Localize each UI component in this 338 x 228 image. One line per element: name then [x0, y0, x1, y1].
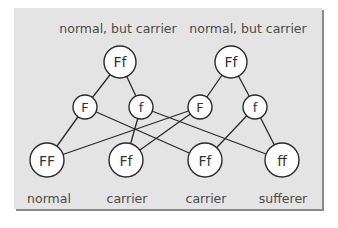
parent-label-2: normal, but carrier [189, 21, 307, 36]
gamete-allele-1: F [81, 100, 88, 115]
offspring-label-2: carrier [107, 191, 149, 206]
offspring-node-3: Ff [188, 143, 222, 177]
offspring-genotype-1: FF [39, 153, 55, 169]
gamete-node-1: F [73, 95, 97, 119]
gamete-allele-4: f [253, 100, 258, 115]
gamete-node-2: f [129, 95, 153, 119]
gamete-node-4: f [243, 95, 267, 119]
gamete-allele-2: f [139, 100, 144, 115]
offspring-node-4: ff [265, 143, 299, 177]
parent-node-2: Ff [215, 46, 247, 78]
offspring-label-4: sufferer [259, 191, 308, 206]
parent-node-1: Ff [104, 46, 136, 78]
parent-genotype-1: Ff [114, 54, 128, 70]
offspring-label-3: carrier [186, 191, 228, 206]
offspring-genotype-2: Ff [120, 153, 134, 169]
parent-genotype-2: Ff [225, 54, 239, 70]
offspring-genotype-4: ff [277, 153, 287, 169]
gamete-allele-3: F [196, 100, 203, 115]
parent-label-1: normal, but carrier [59, 21, 177, 36]
offspring-node-2: Ff [109, 143, 143, 177]
offspring-genotype-3: Ff [199, 153, 213, 169]
offspring-node-1: FF [30, 143, 64, 177]
inheritance-diagram: normal, but carrier normal, but carrier … [0, 0, 338, 228]
gamete-node-3: F [188, 95, 212, 119]
offspring-label-1: normal [27, 191, 71, 206]
